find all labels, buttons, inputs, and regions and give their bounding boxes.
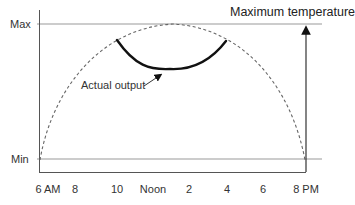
x-tick-label: 8 PM [293, 183, 319, 195]
actual-output-curve [117, 40, 226, 69]
x-tick-label: 6 AM [35, 183, 60, 195]
x-tick-label: 6 [260, 183, 266, 195]
x-tick-label: 10 [111, 183, 123, 195]
x-tick-label: 8 [72, 183, 78, 195]
x-tick-label: Noon [140, 183, 166, 195]
chart-title: Maximum temperature [230, 5, 355, 19]
annotation-arrow [144, 76, 159, 86]
x-tick-label: 4 [224, 183, 230, 195]
actual-output-label: Actual output [81, 79, 145, 91]
ideal-output-curve [40, 24, 305, 160]
y-min-label: Min [11, 153, 29, 165]
x-tick-label: 2 [186, 183, 192, 195]
y-max-label: Max [10, 18, 31, 30]
